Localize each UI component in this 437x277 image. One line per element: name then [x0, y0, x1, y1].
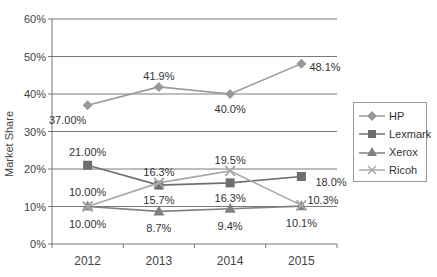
y-tick-label: 0% — [30, 238, 46, 250]
y-tick-label: 20% — [24, 163, 46, 175]
square-marker-icon — [83, 161, 92, 170]
data-label: 18.0% — [315, 176, 346, 188]
legend: HP Lexmark Xerox Ricoh — [353, 102, 427, 182]
gridlines — [52, 19, 337, 207]
legend-label: Ricoh — [389, 164, 417, 176]
diamond-marker-icon — [154, 82, 164, 92]
x-tick-label: 2014 — [217, 254, 244, 268]
y-tick-label: 60% — [24, 13, 46, 25]
data-label: 8.7% — [146, 222, 171, 234]
y-tick-label: 10% — [24, 201, 46, 213]
legend-label: Xerox — [389, 146, 418, 158]
square-marker-icon — [358, 128, 386, 140]
data-label: 9.4% — [218, 220, 243, 232]
diamond-marker-icon — [296, 59, 306, 69]
data-label: 40.0% — [215, 103, 246, 115]
data-label: 41.9% — [143, 70, 174, 82]
y-axis-ticks: 0%10%20%30%40%50%60% — [24, 13, 52, 250]
x-marker-icon — [358, 164, 386, 176]
series-hp — [83, 59, 307, 111]
triangle-marker-icon — [358, 146, 386, 158]
x-tick-label: 2013 — [146, 254, 173, 268]
data-label: 48.1% — [309, 61, 340, 73]
data-label: 10.00% — [69, 186, 107, 198]
x-tick-label: 2015 — [288, 254, 315, 268]
x-tick-label: 2012 — [74, 254, 101, 268]
data-label: 16.3% — [143, 166, 174, 178]
y-axis-label: Market Share — [3, 111, 15, 177]
data-label: 21.00% — [69, 146, 107, 158]
diamond-marker-icon — [358, 110, 386, 122]
series-lines — [82, 59, 307, 216]
data-label: 16.3% — [215, 192, 246, 204]
legend-item-xerox: Xerox — [358, 143, 422, 161]
square-marker-icon — [226, 178, 235, 187]
diamond-marker-icon — [83, 100, 93, 110]
y-tick-label: 30% — [24, 126, 46, 138]
data-label: 10.00% — [69, 218, 107, 230]
series-lexmark — [83, 161, 306, 190]
x-axis-ticks: 2012201320142015 — [52, 244, 337, 268]
series-xerox — [82, 200, 307, 215]
data-label: 15.7% — [143, 194, 174, 206]
triangle-marker-icon — [225, 203, 236, 213]
data-label: 10.3% — [307, 194, 338, 206]
legend-label: HP — [389, 110, 404, 122]
y-tick-label: 40% — [24, 88, 46, 100]
legend-item-lexmark: Lexmark — [358, 125, 422, 143]
diamond-marker-icon — [225, 89, 235, 99]
legend-item-ricoh: Ricoh — [358, 161, 422, 179]
legend-label: Lexmark — [389, 128, 431, 140]
data-label: 37.00% — [49, 114, 87, 126]
square-marker-icon — [297, 172, 306, 181]
data-label: 10.1% — [286, 217, 317, 229]
y-tick-label: 50% — [24, 51, 46, 63]
data-label: 19.5% — [215, 154, 246, 166]
legend-item-hp: HP — [358, 107, 422, 125]
